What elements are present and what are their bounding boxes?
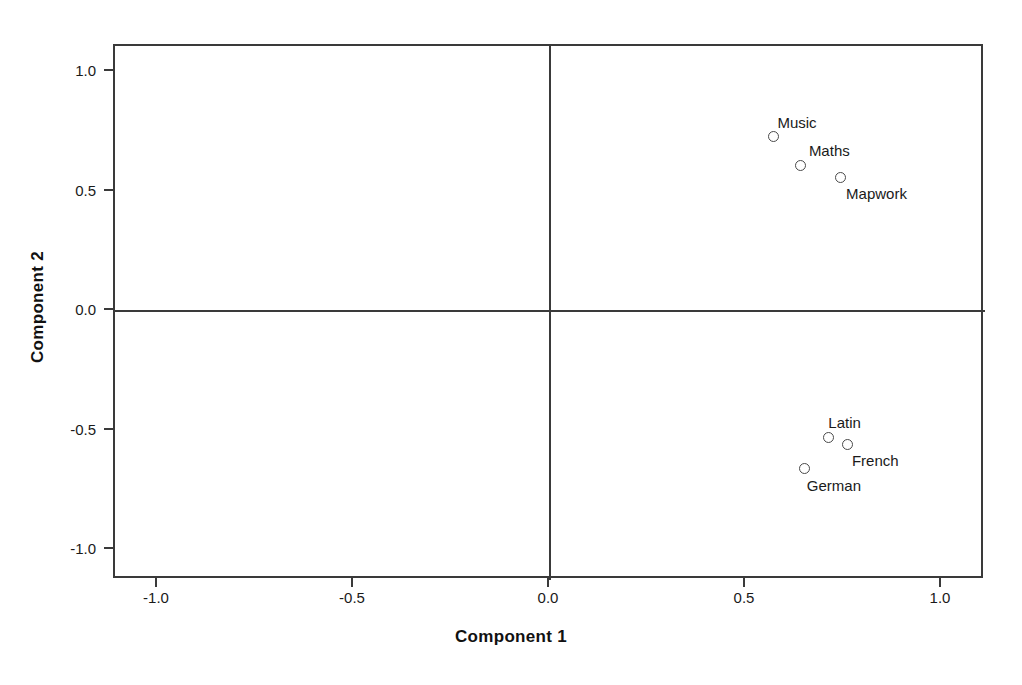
data-point-maths [795,160,806,171]
x-tick-label: -0.5 [322,589,382,606]
component-plot: MusicMathsMapworkLatinFrenchGerman -1.0-… [0,0,1022,685]
y-tick-mark [104,428,113,430]
y-tick-mark [104,308,113,310]
x-tick-mark [155,578,157,587]
data-point-music [768,131,779,142]
x-tick-label: 1.0 [910,589,970,606]
data-point-label-maths: Maths [809,143,850,158]
x-tick-mark [939,578,941,587]
reference-line-horizontal [115,310,985,312]
data-point-label-latin: Latin [828,415,861,430]
x-tick-label: 0.0 [518,589,578,606]
x-tick-mark [743,578,745,587]
x-tick-mark [547,578,549,587]
x-tick-label: 0.5 [714,589,774,606]
y-axis-title: Component 2 [28,177,48,437]
y-tick-label: 1.0 [34,62,96,79]
y-tick-mark [104,547,113,549]
data-point-mapwork [835,172,846,183]
x-tick-mark [351,578,353,587]
data-point-latin [823,432,834,443]
data-point-label-french: French [852,453,899,468]
data-point-german [799,463,810,474]
plot-area: MusicMathsMapworkLatinFrenchGerman [113,44,983,578]
x-axis-title: Component 1 [0,627,1022,647]
reference-line-vertical [549,46,551,580]
data-point-french [842,439,853,450]
y-tick-label: -1.0 [34,540,96,557]
x-tick-label: -1.0 [126,589,186,606]
data-point-label-mapwork: Mapwork [846,186,907,201]
y-tick-mark [104,69,113,71]
y-tick-mark [104,189,113,191]
data-point-label-german: German [807,478,861,493]
data-point-label-music: Music [777,115,816,130]
